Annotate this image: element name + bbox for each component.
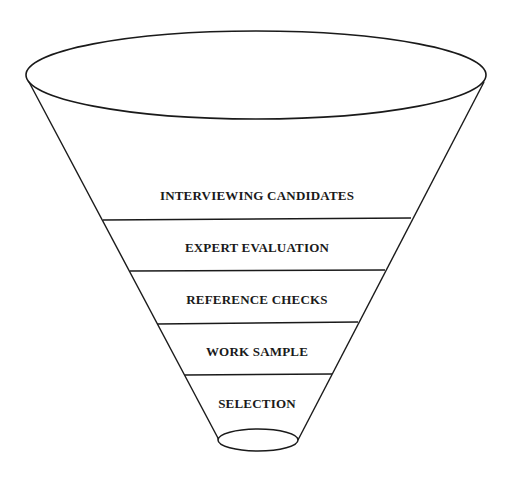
stage-divider-2: [130, 270, 385, 271]
stage-divider-3: [157, 322, 358, 324]
stage-label-reference-checks: REFERENCE CHECKS: [0, 292, 514, 308]
funnel-top-opening: [26, 31, 486, 119]
funnel-left-side: [29, 82, 219, 440]
stage-label-work-sample: WORK SAMPLE: [0, 344, 514, 360]
stage-label-interviewing-candidates: INTERVIEWING CANDIDATES: [0, 188, 514, 204]
stage-label-selection: SELECTION: [0, 396, 514, 412]
funnel-right-side: [298, 82, 484, 440]
stage-divider-4: [185, 374, 332, 375]
funnel-bottom-opening: [218, 429, 298, 451]
stage-label-expert-evaluation: EXPERT EVALUATION: [0, 240, 514, 256]
stage-divider-1: [103, 218, 411, 220]
